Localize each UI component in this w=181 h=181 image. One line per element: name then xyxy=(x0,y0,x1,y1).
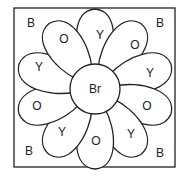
petal-label: O xyxy=(91,134,100,148)
petal-label: O xyxy=(59,32,68,46)
petal-label: O xyxy=(32,99,41,113)
petal-label: O xyxy=(142,99,151,113)
petal-label: O xyxy=(130,38,139,52)
petal-label: Y xyxy=(35,60,43,74)
corner-label-bottom-right: B xyxy=(156,146,164,160)
center-label: Br xyxy=(89,82,101,96)
petal-label: Y xyxy=(146,66,154,80)
corner-label-bottom-left: B xyxy=(25,144,33,158)
corner-label-top-left: B xyxy=(27,16,35,30)
petal-label: Y xyxy=(127,127,135,141)
flower-diagram: YOYOYOYOYOBBBBBr xyxy=(0,0,181,181)
petal-label: Y xyxy=(96,28,104,42)
petal-label: Y xyxy=(58,125,66,139)
corner-label-top-right: B xyxy=(156,16,164,30)
